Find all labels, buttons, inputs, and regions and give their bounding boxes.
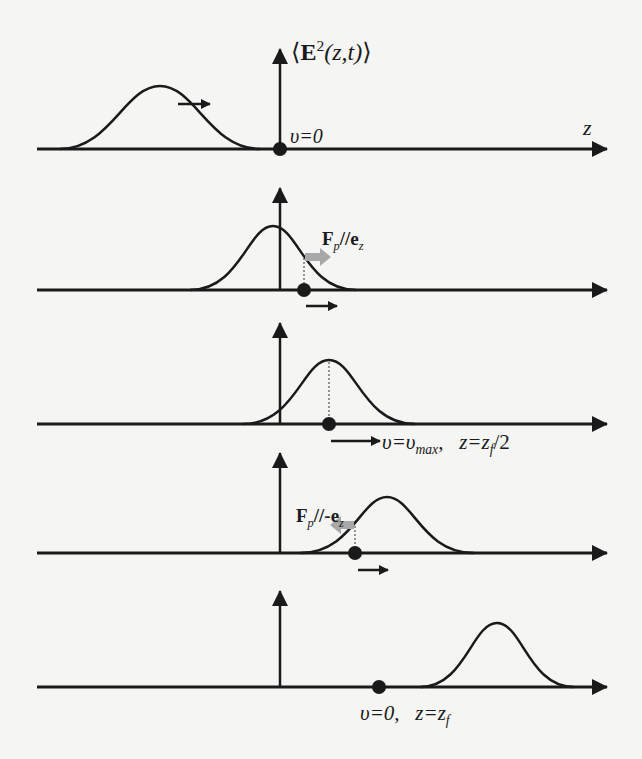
particle	[297, 283, 311, 297]
pulse-curve	[60, 86, 260, 149]
particle	[273, 142, 287, 156]
particle	[322, 417, 336, 431]
panel-4-force-label: Fp//-ez	[296, 506, 344, 525]
panel-1-particle-label: υ=0	[290, 126, 323, 146]
pulse-particle-diagram: ⟨E2(z,t)⟩ z υ=0 Fp//ez υ=υmax, z=zf/2 Fp…	[0, 0, 642, 759]
diagram-drawing	[0, 0, 642, 759]
pulse-curve	[420, 623, 574, 687]
panel-2-force-label: Fp//ez	[322, 229, 364, 248]
panel-5-state-label: υ=0, z=zf	[360, 703, 450, 724]
particle	[348, 546, 362, 560]
panel-3	[37, 323, 607, 441]
z-axis-label: z	[583, 117, 592, 139]
particle	[372, 680, 386, 694]
panel-5	[37, 591, 607, 694]
panel-3-state-label: υ=υmax, z=zf/2	[382, 432, 510, 453]
intensity-axis-label: ⟨E2(z,t)⟩	[291, 40, 372, 64]
